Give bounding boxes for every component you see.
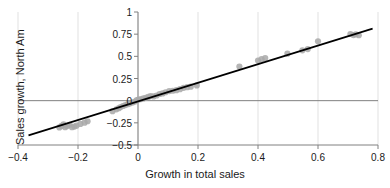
regression-line bbox=[29, 29, 373, 136]
y-tick-label: −0.5 bbox=[112, 140, 132, 151]
x-tick-label: −0.4 bbox=[8, 152, 28, 163]
x-axis-title: Growth in total sales bbox=[0, 168, 390, 180]
y-tick-label: 0.25 bbox=[113, 73, 132, 84]
data-point bbox=[85, 118, 91, 124]
x-tick-label: 0.6 bbox=[311, 152, 325, 163]
y-tick-label: 1 bbox=[126, 7, 132, 18]
x-tick-label: 0.8 bbox=[371, 152, 385, 163]
data-point bbox=[315, 38, 321, 44]
y-tick-label: 0.75 bbox=[113, 29, 132, 40]
y-tick-label: 0.5 bbox=[118, 51, 132, 62]
data-point bbox=[262, 55, 268, 61]
x-tick-label: 0.4 bbox=[251, 152, 265, 163]
x-tick-label: 0.2 bbox=[191, 152, 205, 163]
y-tick-label: 0 bbox=[126, 95, 132, 106]
y-tick-label: −0.25 bbox=[107, 117, 132, 128]
x-tick-label: 0 bbox=[135, 152, 141, 163]
y-axis-title: Sales growth, North Am bbox=[14, 29, 26, 145]
scatter-plot-figure: −0.4−0.200.20.40.60.8 10.750.50.250−0.25… bbox=[0, 0, 390, 188]
x-tick-label: −0.2 bbox=[68, 152, 88, 163]
